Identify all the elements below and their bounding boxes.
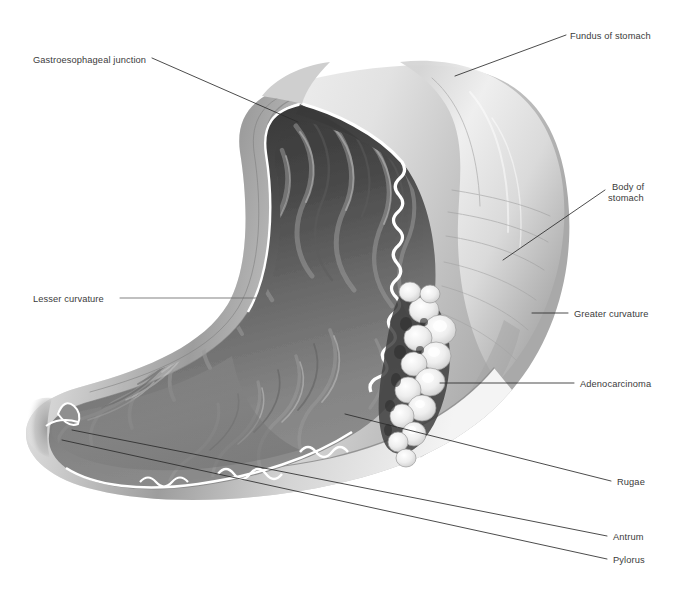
label-pylorus: Pylorus	[613, 555, 645, 567]
label-body-of-stomach-line1: Body of	[612, 182, 644, 194]
label-fundus-of-stomach: Fundus of stomach	[570, 31, 651, 43]
label-adenocarcinoma: Adenocarcinoma	[580, 379, 651, 391]
label-rugae: Rugae	[617, 477, 645, 489]
label-antrum: Antrum	[613, 532, 644, 544]
label-greater-curvature: Greater curvature	[574, 309, 649, 321]
stomach-anatomy-figure: Gastroesophageal junction Lesser curvatu…	[0, 0, 677, 599]
label-lesser-curvature: Lesser curvature	[33, 294, 104, 306]
label-body-of-stomach-line2: stomach	[608, 193, 644, 205]
label-gastroesophageal-junction: Gastroesophageal junction	[33, 55, 146, 67]
